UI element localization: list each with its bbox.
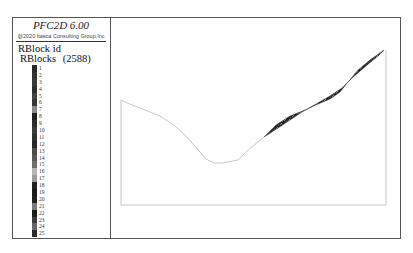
slope-surface [121,100,264,163]
rblock-assembly [264,50,384,137]
footer-text [150,243,270,245]
model-view [0,0,413,253]
domain-boundary [121,50,386,205]
